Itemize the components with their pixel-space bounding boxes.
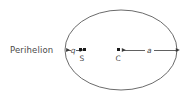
sun-focus-marker xyxy=(79,48,82,51)
perihelion-label: Perihelion xyxy=(10,45,53,55)
q-label: q xyxy=(71,46,76,55)
sun-point-label: S xyxy=(80,54,85,63)
a-label: a xyxy=(147,46,152,55)
center-point-label: C xyxy=(116,54,121,63)
diagram-canvas: q S C a Perihelion xyxy=(0,0,188,98)
sun-focus-marker-secondary xyxy=(83,48,86,51)
orbit-ellipse-diagram: q S C a Perihelion xyxy=(0,0,188,98)
center-marker xyxy=(117,48,120,51)
